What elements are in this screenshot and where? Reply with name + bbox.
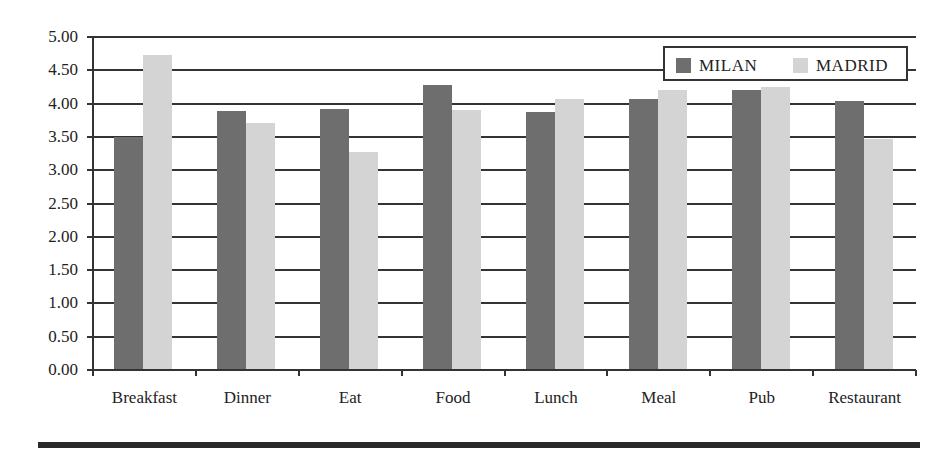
legend-item-milan: MILAN (676, 48, 757, 83)
legend-label-madrid: MADRID (816, 56, 888, 76)
x-tick-label: Pub (710, 388, 813, 408)
x-tick-label: Eat (299, 388, 402, 408)
bar-madrid-meal (658, 90, 687, 370)
bar-madrid-restaurant (864, 139, 893, 370)
y-tick-label: 1.50 (0, 261, 78, 279)
gridline (87, 103, 916, 105)
bar-milan-lunch (526, 112, 555, 370)
legend-swatch-madrid (793, 58, 808, 73)
bar-madrid-lunch (555, 99, 584, 370)
y-tick-label: 3.50 (0, 128, 78, 146)
gridline (87, 269, 916, 271)
gridline (87, 36, 916, 38)
bar-milan-food (423, 85, 452, 370)
x-tick-label: Meal (607, 388, 710, 408)
bar-milan-breakfast (114, 137, 143, 370)
gridline (87, 169, 916, 171)
bar-milan-dinner (217, 111, 246, 370)
x-tick-label: Restaurant (813, 388, 916, 408)
y-tick-label: 1.00 (0, 294, 78, 312)
x-axis-line (87, 369, 916, 371)
x-tick-label: Lunch (505, 388, 608, 408)
x-tick-label: Breakfast (93, 388, 196, 408)
gridline (87, 236, 916, 238)
bar-milan-restaurant (835, 101, 864, 370)
x-tick-label: Dinner (196, 388, 299, 408)
x-tick-label: Food (402, 388, 505, 408)
legend: MILAN MADRID (663, 46, 908, 81)
bar-madrid-dinner (246, 123, 275, 370)
gridline (87, 302, 916, 304)
y-tick-label: 0.50 (0, 328, 78, 346)
bar-milan-pub (732, 90, 761, 370)
gridline (87, 136, 916, 138)
gridline (87, 336, 916, 338)
bar-madrid-eat (349, 152, 378, 370)
y-axis-line (92, 37, 94, 370)
gridline (87, 203, 916, 205)
bar-madrid-food (452, 110, 481, 370)
y-tick-label: 2.00 (0, 228, 78, 246)
y-tick-label: 5.00 (0, 28, 78, 46)
bar-madrid-pub (761, 87, 790, 370)
bar-madrid-breakfast (143, 55, 172, 370)
bar-milan-eat (320, 109, 349, 370)
legend-label-milan: MILAN (699, 56, 757, 76)
legend-swatch-milan (676, 58, 691, 73)
y-tick-label: 4.50 (0, 61, 78, 79)
bar-milan-meal (629, 99, 658, 370)
y-tick-label: 3.00 (0, 161, 78, 179)
y-tick-label: 0.00 (0, 361, 78, 379)
bottom-rule (38, 442, 920, 448)
bar-chart: 0.000.501.001.502.002.503.003.504.004.50… (0, 0, 952, 451)
legend-item-madrid: MADRID (793, 48, 888, 83)
y-tick-label: 2.50 (0, 195, 78, 213)
y-tick-label: 4.00 (0, 95, 78, 113)
